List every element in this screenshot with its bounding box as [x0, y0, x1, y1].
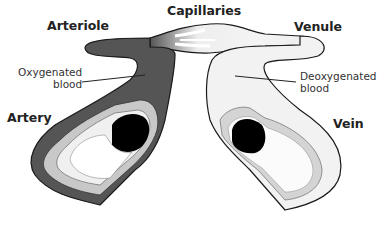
oxygenated-line2: blood: [18, 78, 82, 90]
label-venule: Venule: [294, 19, 342, 34]
vein-cross-section: [206, 36, 340, 210]
deoxygenated-line2: blood: [300, 82, 377, 94]
label-capillaries: Capillaries: [167, 3, 241, 18]
label-arteriole: Arteriole: [47, 18, 109, 33]
artery-cross-section: [31, 38, 175, 205]
oxygenated-line1: Oxygenated: [18, 66, 82, 78]
blood-vessel-diagram: [0, 0, 377, 230]
label-artery: Artery: [7, 110, 52, 125]
label-oxygenated-blood: Oxygenated blood: [18, 66, 82, 90]
label-deoxygenated-blood: Deoxygenated blood: [300, 70, 377, 94]
label-vein: Vein: [333, 116, 364, 131]
deoxygenated-line1: Deoxygenated: [300, 70, 377, 82]
